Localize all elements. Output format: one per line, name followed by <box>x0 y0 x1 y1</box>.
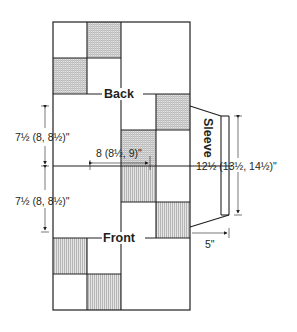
schematic-svg: Back Front Sleeve 12½ (13½, 14½)" 5" 7½ … <box>0 0 297 332</box>
half-width-measure: 8 (8½, 9)" <box>96 147 142 159</box>
front-block <box>156 202 190 238</box>
front-block <box>53 238 87 274</box>
sleeve-width-measure: 12½ (13½, 14½)" <box>196 160 277 172</box>
back-label: Back <box>104 87 134 101</box>
front-block <box>87 274 121 310</box>
sleeve-length-dimension <box>192 228 229 238</box>
schematic-diagram: Back Front Sleeve 12½ (13½, 14½)" 5" 7½ … <box>0 0 297 332</box>
back-length-measure: 7½ (8, 8½)" <box>15 131 70 143</box>
front-label: Front <box>103 231 136 245</box>
front-block <box>121 166 156 202</box>
sleeve-label: Sleeve <box>201 118 215 158</box>
back-block <box>156 94 190 130</box>
back-block <box>87 22 121 58</box>
sleeve-length-measure: 5" <box>205 238 215 250</box>
back-block <box>53 58 87 94</box>
front-length-measure: 7½ (8, 8½)" <box>15 195 70 207</box>
